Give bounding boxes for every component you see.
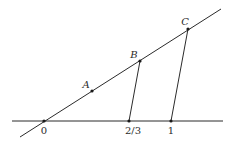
point-zero — [42, 119, 45, 122]
segment-C-to-one — [171, 29, 188, 121]
label-B: B — [129, 49, 137, 60]
point-B — [138, 59, 141, 62]
label-A: A — [81, 79, 89, 90]
parallel-segments — [129, 29, 188, 121]
point-A — [90, 89, 93, 92]
label-C: C — [181, 16, 189, 27]
segment-B-to-two-thirds — [129, 61, 140, 121]
label-two-thirds: 2/3 — [125, 125, 141, 136]
point-one — [169, 119, 172, 122]
label-zero: 0 — [41, 125, 47, 136]
label-one: 1 — [168, 125, 174, 136]
point-two-thirds — [127, 119, 130, 122]
oblique-ray — [20, 9, 221, 137]
point-C — [186, 27, 189, 30]
construction-diagram: 02/31ABC — [0, 0, 236, 146]
